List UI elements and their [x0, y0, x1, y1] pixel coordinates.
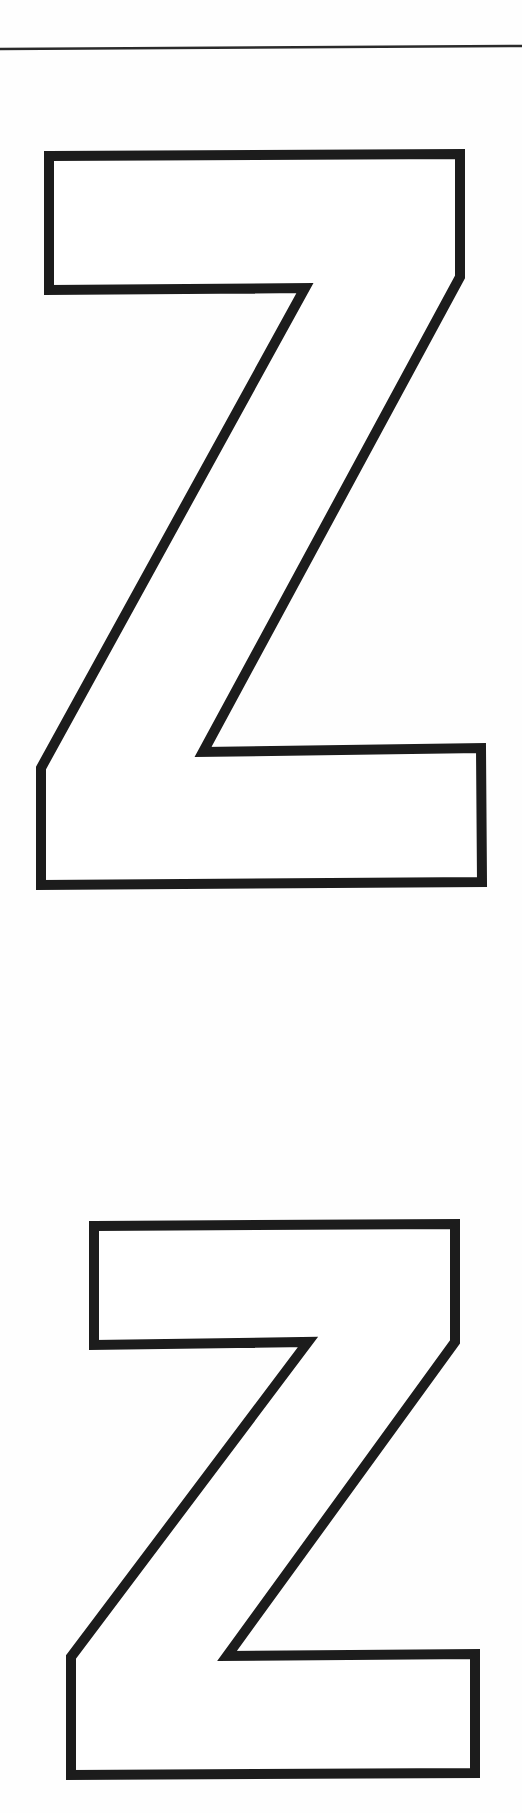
printable-page: Z Z — [0, 0, 522, 1813]
letter-z-outline-large — [41, 154, 482, 885]
letter-z-outline-small — [71, 1224, 475, 1775]
letter-canvas — [0, 0, 522, 1813]
top-rule-line — [0, 46, 522, 49]
